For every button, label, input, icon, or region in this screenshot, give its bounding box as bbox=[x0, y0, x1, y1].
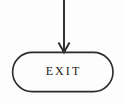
incoming-arrow-connector bbox=[59, 0, 70, 52]
flowchart-drawing bbox=[0, 0, 125, 103]
flowchart-canvas: EXIT bbox=[0, 0, 125, 103]
exit-terminator-shape bbox=[13, 52, 113, 91]
